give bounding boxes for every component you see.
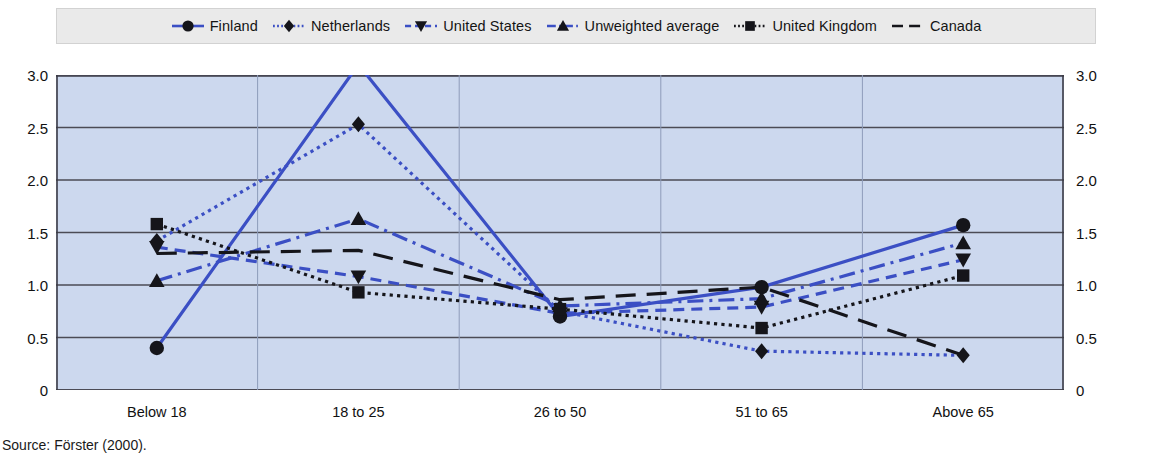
data-point-finland — [956, 218, 970, 232]
data-point-netherlands — [957, 347, 970, 363]
legend-label-united-kingdom: United Kingdom — [772, 18, 877, 34]
legend-item-united-states[interactable]: United States — [404, 18, 531, 34]
legend-key-netherlands — [272, 18, 306, 34]
legend-item-unweighted-average[interactable]: Unweighted average — [546, 18, 720, 34]
legend-item-united-kingdom[interactable]: United Kingdom — [733, 18, 877, 34]
legend-marker-finland — [182, 20, 193, 31]
legend-key-united-states — [404, 18, 438, 34]
data-point-netherlands — [755, 343, 768, 359]
y-axis-tick-right: 3.0 — [1076, 67, 1118, 84]
y-axis-tick-right: 1.0 — [1076, 277, 1118, 294]
source-note: Source: Förster (2000). — [2, 437, 147, 453]
legend-key-finland — [171, 18, 205, 34]
series-markers — [149, 75, 971, 363]
data-point-united-kingdom — [151, 218, 163, 230]
chart-legend: FinlandNetherlandsUnited StatesUnweighte… — [56, 8, 1096, 44]
legend-label-finland: Finland — [210, 18, 258, 34]
x-axis-tick: 26 to 50 — [534, 404, 586, 420]
x-axis-tick: 18 to 25 — [332, 404, 384, 420]
y-axis-tick-right: 2.5 — [1076, 119, 1118, 136]
y-axis-tick-left: 0.5 — [6, 329, 48, 346]
y-axis-tick-left: 2.0 — [6, 172, 48, 189]
y-axis-tick-right: 0 — [1076, 382, 1118, 399]
y-axis-tick-left: 3.0 — [6, 67, 48, 84]
legend-label-canada: Canada — [930, 18, 981, 34]
plot-area — [56, 75, 1064, 390]
x-axis-tick: Above 65 — [933, 404, 994, 420]
legend-label-unweighted-average: Unweighted average — [585, 18, 720, 34]
x-axis-tick: Below 18 — [127, 404, 187, 420]
data-point-united-kingdom — [755, 322, 767, 334]
y-axis-tick-left: 0 — [6, 382, 48, 399]
y-axis-tick-right: 2.0 — [1076, 172, 1118, 189]
y-axis-tick-left: 1.0 — [6, 277, 48, 294]
legend-label-united-states: United States — [443, 18, 531, 34]
legend-key-united-kingdom — [733, 18, 767, 34]
legend-marker-united-kingdom — [746, 21, 756, 31]
data-point-netherlands — [352, 116, 365, 132]
legend-key-unweighted-average — [546, 18, 580, 34]
legend-marker-netherlands — [284, 20, 294, 32]
data-point-unweighted-average — [955, 235, 971, 249]
y-axis-tick-left: 1.5 — [6, 224, 48, 241]
legend-label-netherlands: Netherlands — [311, 18, 390, 34]
y-axis-tick-right: 0.5 — [1076, 329, 1118, 346]
data-point-finland — [150, 341, 164, 355]
chart-canvas — [56, 75, 1064, 390]
legend-item-canada[interactable]: Canada — [891, 18, 981, 34]
legend-key-canada — [891, 18, 925, 34]
y-axis-tick-right: 1.5 — [1076, 224, 1118, 241]
legend-item-finland[interactable]: Finland — [171, 18, 258, 34]
data-point-unweighted-average — [351, 211, 367, 225]
data-point-united-kingdom — [554, 303, 566, 315]
data-point-united-kingdom — [352, 286, 364, 298]
legend-item-netherlands[interactable]: Netherlands — [272, 18, 390, 34]
x-axis-tick: 51 to 65 — [735, 404, 787, 420]
y-axis-tick-left: 2.5 — [6, 119, 48, 136]
data-point-united-kingdom — [957, 269, 969, 281]
